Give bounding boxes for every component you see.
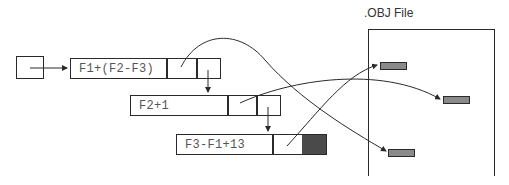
- obj-entry-1: [380, 62, 407, 70]
- obj-entry-2: [443, 96, 470, 104]
- record-1-expression: F1+(F2-F3): [79, 59, 154, 78]
- record-node-1: F1+(F2-F3): [70, 58, 221, 79]
- record-3-expression: F3-F1+13: [185, 135, 245, 154]
- obj-entry-3: [388, 149, 415, 157]
- record-3-null-terminator: [302, 135, 326, 154]
- record-node-2: F2+1: [130, 95, 281, 116]
- record-1-divider-ref: [166, 59, 168, 78]
- record-2-expression: F2+1: [139, 96, 169, 115]
- record-node-3: F3-F1+13: [176, 134, 327, 155]
- record-2-divider-ref: [227, 96, 229, 115]
- record-1-divider-next: [196, 59, 198, 78]
- record-3-divider-ref: [272, 135, 274, 154]
- obj-file-title: .OBJ File: [364, 6, 413, 20]
- record-2-divider-next: [256, 96, 258, 115]
- head-pointer-box: [16, 56, 44, 79]
